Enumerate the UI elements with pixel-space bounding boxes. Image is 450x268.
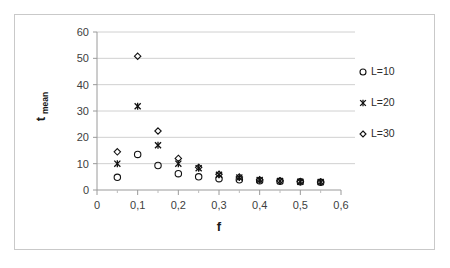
legend: L=10L=20L=30 — [360, 65, 395, 139]
legend-item-L-20[interactable]: L=20 — [360, 96, 395, 108]
data-point — [114, 174, 120, 180]
y-tick-label: 40 — [77, 79, 89, 91]
x-tick-label: 0,5 — [293, 199, 308, 211]
x-axis-title: f — [217, 219, 222, 234]
y-axis-title: t mean — [33, 92, 50, 121]
data-point — [175, 170, 181, 176]
data-point — [134, 151, 140, 157]
data-point — [135, 103, 141, 110]
y-tick-label: 0 — [83, 184, 89, 196]
y-tick-label: 60 — [77, 26, 89, 38]
x-tick-label: 0,1 — [130, 199, 145, 211]
y-axis-title-subscript: mean — [40, 92, 50, 114]
legend-marker-diamond — [360, 131, 366, 137]
series-L-20 — [114, 103, 323, 186]
legend-label: L=30 — [371, 127, 395, 139]
data-points — [114, 53, 324, 186]
data-point — [155, 142, 161, 149]
scatter-plot: 0102030405060 00,10,20,30,40,50,6 f t me… — [15, 15, 436, 251]
x-tick-label: 0,2 — [171, 199, 186, 211]
y-axis-tick-labels: 0102030405060 — [77, 26, 89, 196]
legend-item-L-30[interactable]: L=30 — [360, 127, 395, 139]
x-tick-label: 0 — [94, 199, 100, 211]
data-point — [114, 149, 120, 155]
x-axis-ticks — [97, 190, 341, 195]
y-axis-title-base: t — [33, 116, 48, 121]
legend-label: L=20 — [371, 96, 395, 108]
x-axis-tick-labels: 00,10,20,30,40,50,6 — [94, 199, 349, 211]
y-tick-label: 50 — [77, 52, 89, 64]
y-tick-label: 20 — [77, 131, 89, 143]
y-axis-ticks — [93, 32, 97, 190]
x-tick-label: 0,3 — [211, 199, 226, 211]
legend-label: L=10 — [371, 65, 395, 77]
chart-container: 0102030405060 00,10,20,30,40,50,6 f t me… — [14, 14, 435, 250]
y-tick-label: 10 — [77, 158, 89, 170]
x-tick-label: 0,6 — [333, 199, 348, 211]
legend-item-L-10[interactable]: L=10 — [360, 65, 395, 77]
y-tick-label: 30 — [77, 105, 89, 117]
series-L-10 — [114, 151, 324, 185]
gridlines — [97, 32, 355, 164]
series-L-30 — [114, 53, 324, 185]
data-point — [155, 128, 161, 134]
data-point — [195, 174, 201, 180]
legend-marker-circle — [360, 69, 366, 75]
x-tick-label: 0,4 — [252, 199, 267, 211]
legend-marker-asterisk — [360, 100, 366, 107]
